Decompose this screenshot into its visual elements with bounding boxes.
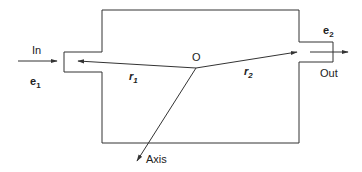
control-volume-diagram: In e1 O r1 r2 e2 Out Axis <box>0 0 362 172</box>
control-volume-outline <box>64 10 333 143</box>
outlet-label: Out <box>320 67 338 79</box>
inlet-label: In <box>32 44 41 56</box>
e1-label: e1 <box>30 75 41 90</box>
origin-label: O <box>192 51 201 63</box>
e2-label: e2 <box>323 24 334 39</box>
axis-vector <box>137 68 196 161</box>
r2-label: r2 <box>244 65 253 80</box>
r1-label: r1 <box>129 70 138 85</box>
r1-vector <box>78 61 196 68</box>
axis-label: Axis <box>146 153 167 165</box>
